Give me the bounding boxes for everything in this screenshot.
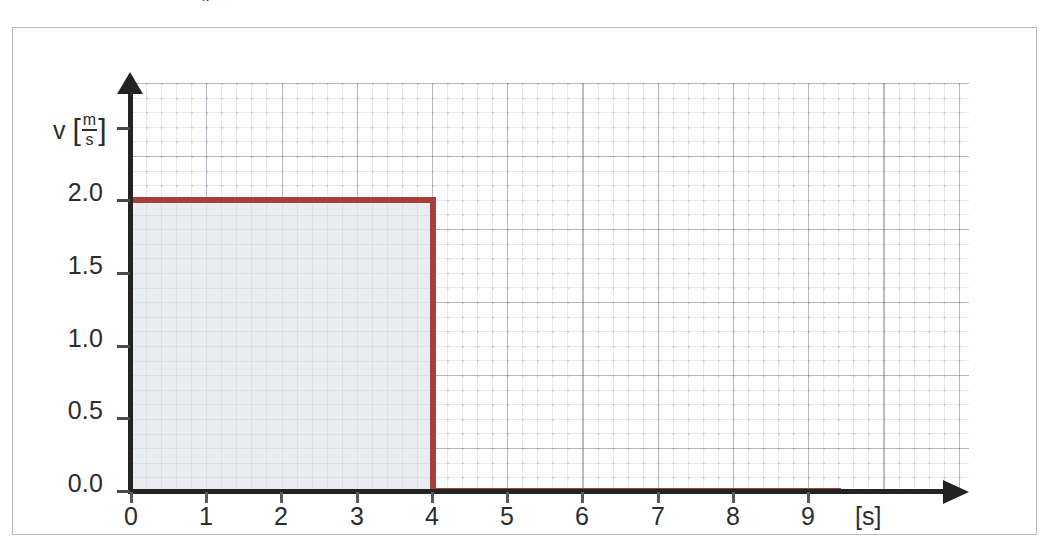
y-tick-2 [117,345,130,348]
time-axis-line [129,489,949,494]
shaded-area-under-curve [131,200,432,491]
figure-frame: 0.0 0.5 1.0 1.5 2.0 v [ m s ] 0 1 [12,27,1037,535]
x-tick-label-2: 2 [251,502,311,531]
screenshot-canvas: g 0.0 0.5 1.0 1.5 2.0 [0,0,1053,543]
y-tick-label-2: 1.0 [29,324,103,353]
time-axis-arrow-icon [943,480,969,504]
time-axis-label: [s] [855,502,881,531]
x-tick-label-0: 0 [101,502,161,531]
x-tick-label-1: 1 [176,502,236,531]
velocity-unit-numerator: m [82,112,97,128]
velocity-axis-line [128,86,133,494]
curve-segment-velocity-drop [430,197,436,494]
y-tick-0 [117,490,130,493]
velocity-axis-label-symbol: v [53,116,66,145]
clipped-top-text: g [202,0,209,1]
x-tick-label-8: 8 [703,502,763,531]
x-tick-label-7: 7 [628,502,688,531]
x-tick-label-5: 5 [477,502,537,531]
y-tick-label-4: 2.0 [29,178,103,207]
velocity-axis-label-bracket-open: [ [73,115,81,145]
velocity-axis-unit-fraction: m s [82,112,97,148]
x-tick-label-9: 9 [778,502,838,531]
y-tick-label-0: 0.0 [29,469,103,498]
velocity-axis-label-bracket-close: ] [98,115,106,145]
shaded-area-texture [131,200,432,491]
y-tick-4 [117,199,130,202]
y-tick-label-3: 1.5 [29,251,103,280]
velocity-unit-denominator: s [85,132,95,148]
y-tick-3 [117,272,130,275]
x-tick-label-6: 6 [552,502,612,531]
y-tick-1 [117,417,130,420]
x-tick-label-4: 4 [402,502,462,531]
velocity-axis-arrow-icon [117,72,143,94]
x-tick-label-3: 3 [327,502,387,531]
y-tick-5 [117,127,130,130]
velocity-axis-label: v [ m s ] [53,112,107,148]
y-tick-label-1: 0.5 [29,396,103,425]
curve-segment-constant-velocity [131,197,436,203]
